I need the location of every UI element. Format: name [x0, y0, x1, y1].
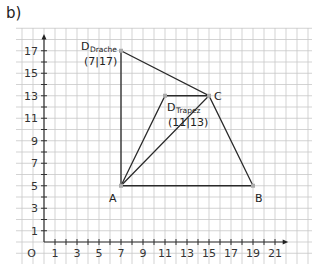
point-marker-d_trapez [163, 94, 167, 98]
point-marker-b [251, 184, 255, 188]
x-tick-label: 13 [180, 247, 194, 260]
point-label-a: A [109, 192, 117, 205]
origin-label: O [27, 247, 36, 260]
point-label-d-drache: D [81, 40, 89, 53]
point-label-d-trapez: D [167, 101, 175, 114]
point-marker-c [207, 94, 211, 98]
x-tick-label: 21 [268, 247, 282, 260]
y-axis-arrow-icon [42, 34, 47, 40]
y-tick-label: 5 [31, 180, 38, 193]
point-label-b: B [255, 192, 263, 205]
y-tick-label: 7 [31, 157, 38, 170]
x-tick-label: 15 [202, 247, 216, 260]
x-tick-label: 11 [158, 247, 172, 260]
y-tick-label: 9 [31, 135, 38, 148]
x-tick-label: 1 [52, 247, 59, 260]
point-coords-d-drache: (7|17) [84, 55, 117, 68]
y-tick-label: 15 [24, 67, 38, 80]
y-tick-label: 1 [31, 225, 38, 238]
x-tick-label: 9 [140, 247, 147, 260]
y-tick-label: 3 [31, 202, 38, 215]
grid [16, 28, 312, 264]
point-label-d-trapez-sub: Trapez [175, 106, 201, 115]
x-tick-label: 3 [74, 247, 81, 260]
coordinate-plot: 135791113151719211357911131517OABCDDrach… [0, 0, 329, 270]
x-axis-arrow-icon [283, 240, 289, 245]
point-label-d-drache-sub: Drache [90, 45, 117, 54]
x-tick-label: 7 [118, 247, 125, 260]
y-tick-label: 13 [24, 90, 38, 103]
y-tick-label: 11 [24, 112, 38, 125]
point-marker-d_drache [119, 49, 123, 53]
x-tick-label: 17 [224, 247, 238, 260]
y-tick-label: 17 [24, 45, 38, 58]
point-label-c: C [214, 90, 222, 103]
point-marker-a [119, 184, 123, 188]
point-coords-d-trapez: (11|13) [168, 116, 208, 129]
x-tick-label: 5 [96, 247, 103, 260]
x-tick-label: 19 [246, 247, 260, 260]
